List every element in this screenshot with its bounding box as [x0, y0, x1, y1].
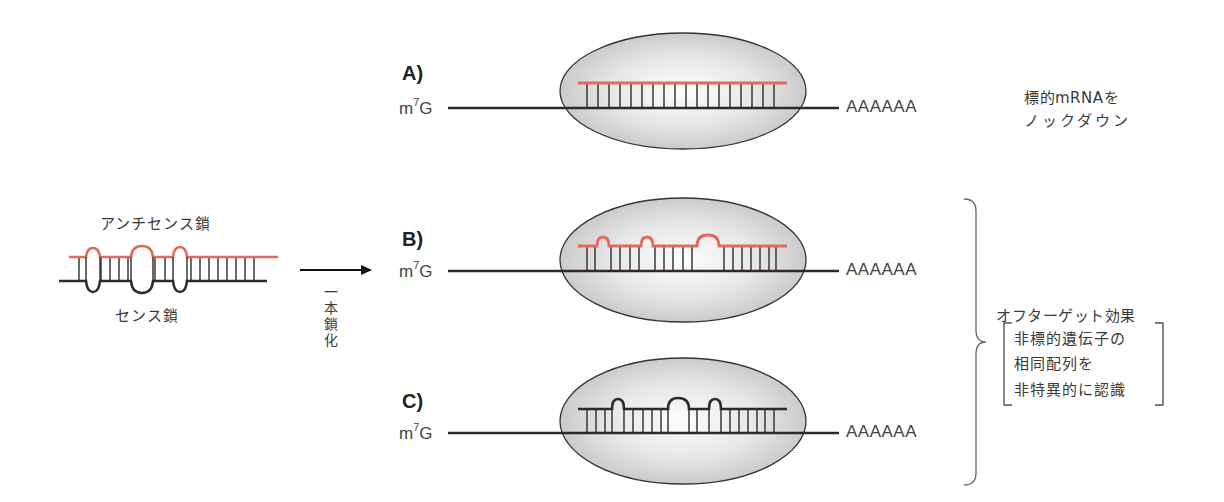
panel-a-polya: AAAAAA: [846, 97, 917, 117]
panel-b-cap: m7G: [399, 260, 433, 282]
cap-g: G: [419, 99, 432, 118]
panel-a-graphic: [448, 33, 839, 149]
sense-strand: [59, 281, 267, 293]
sirna-duplex: [59, 246, 278, 293]
cap-superscript: 7: [413, 259, 419, 271]
cap-g: G: [419, 262, 432, 281]
cap-superscript: 7: [413, 96, 419, 108]
panel-b-graphic: [448, 198, 839, 322]
panel-c-cap: m7G: [399, 422, 433, 444]
panel-b-letter: B): [402, 228, 423, 251]
arrow-label-char: 一: [322, 284, 340, 300]
off-target-line1: 非標的遺伝子の: [1014, 327, 1126, 348]
off-target-line3: 非特異的に認識: [1014, 378, 1126, 399]
result-a-line2: ノックダウン: [1024, 109, 1131, 130]
cap-m: m: [399, 262, 413, 281]
off-target-line2: 相同配列を: [1014, 352, 1094, 373]
panel-c-letter: C): [402, 390, 423, 413]
arrow-label-char: 化: [322, 332, 340, 348]
sense-label: センス鎖: [115, 304, 179, 325]
panel-a-letter: A): [402, 62, 423, 85]
cap-g: G: [419, 424, 432, 443]
result-a-line1: 標的mRNAを: [1024, 86, 1119, 107]
cap-superscript: 7: [413, 421, 419, 433]
curly-brace: [964, 199, 986, 485]
cap-m: m: [399, 99, 413, 118]
antisense-strand: [69, 246, 278, 257]
single-strand-arrow: [300, 265, 372, 275]
panel-c-polya: AAAAAA: [846, 422, 917, 442]
arrow-label-char: 鎖: [322, 316, 340, 332]
duplex-base-pairs: [79, 258, 254, 280]
off-target-title: オフターゲット効果: [996, 304, 1136, 325]
panel-c-graphic: [448, 358, 839, 484]
antisense-label: アンチセンス鎖: [100, 212, 211, 233]
diagram-graphics: [0, 0, 1224, 502]
panel-b-polya: AAAAAA: [846, 260, 917, 280]
cap-m: m: [399, 424, 413, 443]
arrow-label-char: 本: [322, 300, 340, 316]
single-strand-label: 一 本 鎖 化: [322, 284, 340, 348]
panel-a-cap: m7G: [399, 97, 433, 119]
